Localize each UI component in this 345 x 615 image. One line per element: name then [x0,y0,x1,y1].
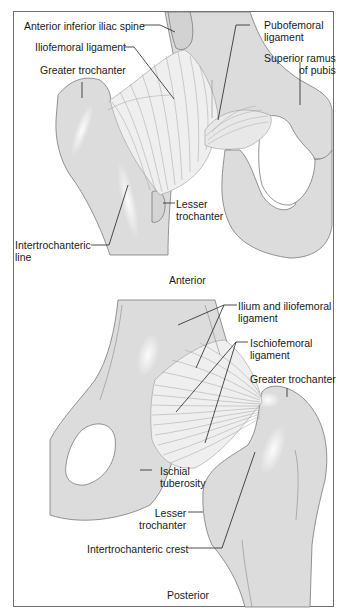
label-line-1: Pubofemoral [264,19,324,31]
label-intertrochanteric-crest: Intertrochanteric crest [87,543,189,555]
label-intertrochanteric-line: Intertrochanteric line [15,239,91,263]
caption-posterior: Posterior [167,589,209,601]
label-line-2: trochanter [139,519,186,531]
label-line-2: ligament [264,31,324,43]
label-line-2: line [15,251,91,263]
caption-anterior: Anterior [169,274,206,286]
label-iliofemoral-ligament: Iliofemoral ligament [35,41,126,53]
label-greater-trochanter-posterior: Greater trochanter [250,373,336,385]
label-anterior-inferior-iliac-spine: Anterior inferior iliac spine [24,20,145,32]
label-line-1: Lesser [176,198,223,210]
label-line-2: ligament [238,312,331,324]
label-pubofemoral-ligament: Pubofemoral ligament [264,19,324,43]
label-greater-trochanter-anterior: Greater trochanter [40,64,126,76]
label-line-2: ligament [250,349,312,361]
label-ilium-and-iliofemoral-ligament: Ilium and iliofemoral ligament [238,300,331,324]
label-line-1: Intertrochanteric [15,239,91,251]
label-line-1: Ischiofemoral [250,337,312,349]
label-ischiofemoral-ligament: Ischiofemoral ligament [250,337,312,361]
label-line-2: of pubis [264,64,336,76]
label-line-1: Superior ramus [264,52,336,64]
label-lesser-trochanter-posterior: Lesser trochanter [139,507,186,531]
label-superior-ramus-of-pubis: Superior ramus of pubis [264,52,336,76]
label-line-2: tuberosity [160,477,206,489]
label-ischial-tuberosity: Ischial tuberosity [160,465,206,489]
label-line-1: Ischial [160,465,206,477]
label-line-1: Ilium and iliofemoral [238,300,331,312]
label-line-1: Lesser [139,507,186,519]
label-lesser-trochanter-anterior: Lesser trochanter [176,198,223,222]
label-line-2: trochanter [176,210,223,222]
